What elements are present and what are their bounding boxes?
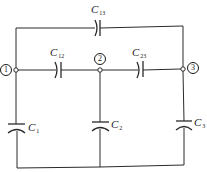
label-c13: C13 — [91, 4, 105, 16]
node-3-label: 3 — [187, 62, 199, 74]
node-2-terminal — [98, 68, 102, 72]
label-c1: C1 — [28, 122, 39, 134]
node-3-terminal — [181, 67, 185, 71]
label-c12: C12 — [50, 47, 64, 59]
label-c2: C2 — [111, 119, 122, 131]
label-c3: C3 — [194, 117, 205, 129]
node-2-label: 2 — [94, 53, 106, 65]
node-1-label: 1 — [0, 64, 12, 76]
wire-branch-left — [16, 72, 17, 168]
node-1-terminal — [14, 68, 18, 72]
circuit-diagram — [0, 0, 207, 172]
label-c23: C23 — [132, 47, 146, 59]
wire-branch-right — [183, 71, 184, 165]
capacitor-c13-symbol — [95, 20, 100, 36]
